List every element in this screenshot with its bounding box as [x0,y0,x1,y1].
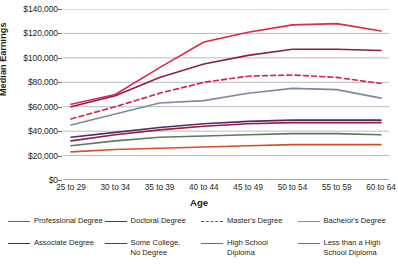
legend-swatch-icon [8,217,30,227]
legend-item[interactable]: Associate Degree [8,237,105,259]
legend-label: Some College, No Degree [131,238,181,258]
y-axis-tick-mark [57,58,62,59]
legend-swatch-icon [298,217,320,227]
legend-label: Bachelor's Degree [324,216,386,226]
legend-item[interactable]: High School Diploma [201,237,298,259]
legend-item[interactable]: Less than a High School Diploma [298,237,395,259]
legend-item[interactable]: Bachelor's Degree [298,215,395,237]
legend-label: Less than a High School Diploma [324,238,381,258]
x-axis-tick-label: 55 to 59 [322,183,352,192]
legend-swatch-icon [201,217,223,227]
x-axis-tick-label: 35 to 39 [145,183,175,192]
y-axis-tick-label: $60,000 [28,102,58,112]
y-axis-tick-label: $40,000 [28,126,58,136]
y-axis-tick-label: $120,000 [23,28,58,38]
legend-item[interactable]: Some College, No Degree [105,237,202,259]
legend-swatch-icon [8,239,30,249]
legend-label: High School Diploma [227,238,268,258]
legend-swatch-icon [298,239,320,249]
axis-lines [63,9,389,180]
chart-figure: Median Earnings $0$20,000$40,000$60,000$… [0,0,398,264]
legend-label: Professional Degree [34,216,103,226]
x-axis-title: Age [0,197,398,208]
y-axis-tick-mark [57,107,62,108]
x-axis-tick-label: 30 to 34 [100,183,130,192]
legend-item[interactable]: Professional Degree [8,215,105,237]
legend-label: Master's Degree [227,216,282,226]
legend-item[interactable]: Master's Degree [201,215,298,237]
y-axis-tick-mark [57,82,62,83]
x-axis-tick-label: 40 to 44 [189,183,219,192]
y-axis-tick-label: $80,000 [28,77,58,87]
y-axis-tick-label: $20,000 [28,151,58,161]
legend-swatch-icon [105,217,127,227]
y-axis-tick-mark [57,156,62,157]
x-axis-tick-labels: 25 to 2930 to 3435 to 3940 to 4445 to 49… [63,183,389,197]
y-axis-tick-mark [57,33,62,34]
legend-label: Associate Degree [34,238,94,248]
x-axis-tick-label: 60 to 64 [366,183,396,192]
plot-area [63,9,389,180]
legend-item[interactable]: Doctoral Degree [105,215,202,237]
y-axis-tick-label: $140,000 [23,4,58,14]
y-axis-tick-label: $100,000 [23,53,58,63]
y-axis-tick-mark [57,9,62,10]
legend-swatch-icon [105,239,127,249]
legend-label: Doctoral Degree [131,216,186,226]
x-axis-tick-label: 45 to 49 [233,183,263,192]
x-axis-tick-label: 25 to 29 [56,183,86,192]
x-axis-tick-label: 50 to 54 [278,183,308,192]
y-axis-tick-mark [57,131,62,132]
y-axis-tick-mark [57,180,62,181]
legend-swatch-icon [201,239,223,249]
chart-legend: Professional DegreeDoctoral DegreeMaster… [8,215,394,259]
